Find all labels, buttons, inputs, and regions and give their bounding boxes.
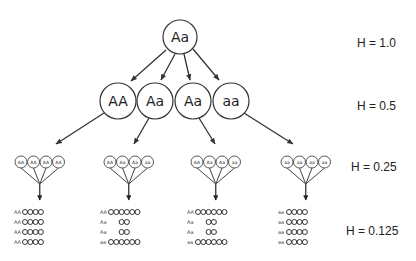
individual-circle bbox=[130, 210, 135, 215]
offspring-label: aa bbox=[232, 160, 238, 165]
offspring-label: AA bbox=[18, 160, 25, 165]
individual-circle bbox=[206, 210, 211, 215]
individual-circle bbox=[222, 210, 227, 215]
individual-circle bbox=[287, 240, 292, 245]
population-row-label: Aa bbox=[100, 219, 106, 225]
heterozygosity-labels: H = 1.0 H = 0.5 H = 0.25 H = 0.125 bbox=[346, 36, 399, 238]
h-label: H = 0.125 bbox=[346, 224, 399, 238]
individual-circle bbox=[302, 210, 307, 215]
individual-circle bbox=[135, 210, 140, 215]
population-row-label: aa bbox=[100, 239, 106, 245]
individual-circle bbox=[211, 230, 216, 235]
individual-circle bbox=[292, 230, 297, 235]
individual-circle bbox=[23, 210, 28, 215]
individual-circle bbox=[23, 240, 28, 245]
genotype-label: Aa bbox=[146, 93, 164, 109]
individual-circle bbox=[119, 240, 124, 245]
selfing-heterozygosity-diagram: Aa AA Aa Aa aa H = 1.0 H = 0.5 H = 0.25 … bbox=[0, 0, 416, 261]
offspring-label: aa bbox=[309, 160, 315, 165]
h-label: H = 0.25 bbox=[351, 160, 397, 174]
individual-circle bbox=[28, 230, 33, 235]
individual-circle bbox=[23, 230, 28, 235]
offspring-label: AA bbox=[107, 160, 114, 165]
offspring-label: aa bbox=[297, 160, 303, 165]
population-row-label: Aa bbox=[100, 229, 106, 235]
individual-circle bbox=[28, 210, 33, 215]
offspring-label: Aa bbox=[120, 160, 126, 165]
generation-3: AAAAAAAAAAAaAaaaAAAaAaaaaaaaaaaa bbox=[14, 209, 307, 245]
h-label: H = 0.5 bbox=[357, 99, 396, 113]
individual-circle bbox=[196, 240, 201, 245]
individual-circle bbox=[287, 220, 292, 225]
genotype-label: AA bbox=[108, 93, 128, 109]
individual-circle bbox=[302, 230, 307, 235]
population-row-label: AA bbox=[100, 209, 108, 215]
population-group: AAAAAAAA bbox=[14, 209, 43, 245]
individual-circle bbox=[206, 220, 211, 225]
individual-circle bbox=[135, 240, 140, 245]
individual-circle bbox=[28, 220, 33, 225]
population-row-label: AA bbox=[14, 229, 22, 235]
individual-circle bbox=[114, 210, 119, 215]
individual-circle bbox=[201, 210, 206, 215]
population-group: AAAaAaaa bbox=[187, 209, 227, 245]
individual-circle bbox=[38, 230, 43, 235]
individual-circle bbox=[287, 230, 292, 235]
offspring-label: Aa bbox=[219, 160, 225, 165]
individual-circle bbox=[28, 240, 33, 245]
individual-circle bbox=[217, 210, 222, 215]
population-row-label: AA bbox=[14, 239, 22, 245]
individual-circle bbox=[206, 240, 211, 245]
individual-circle bbox=[292, 240, 297, 245]
individual-circle bbox=[302, 240, 307, 245]
individual-circle bbox=[297, 240, 302, 245]
population-group: aaaaaaaa bbox=[278, 209, 307, 245]
generation-1: AA Aa Aa aa bbox=[100, 83, 249, 119]
offspring-group: AAAAAAAA bbox=[15, 156, 65, 200]
individual-circle bbox=[201, 240, 206, 245]
individual-circle bbox=[38, 220, 43, 225]
individual-circle bbox=[38, 240, 43, 245]
individual-circle bbox=[217, 240, 222, 245]
genotype-label: Aa bbox=[171, 29, 189, 45]
individual-circle bbox=[211, 210, 216, 215]
individual-circle bbox=[211, 240, 216, 245]
individual-circle bbox=[292, 220, 297, 225]
offspring-label: AA bbox=[55, 160, 62, 165]
individual-circle bbox=[297, 210, 302, 215]
offspring-group: aaaaaaaa bbox=[281, 156, 331, 200]
genotype-label: aa bbox=[222, 93, 239, 109]
offspring-label: aa bbox=[145, 160, 151, 165]
offspring-group: AAAaAaaa bbox=[191, 156, 241, 200]
population-row-label: aa bbox=[278, 209, 284, 215]
offspring-label: AA bbox=[30, 160, 37, 165]
individual-circle bbox=[33, 210, 38, 215]
offspring-label: AA bbox=[43, 160, 50, 165]
population-group: AAAaAaaa bbox=[100, 209, 140, 245]
genotype-label: Aa bbox=[184, 93, 202, 109]
offspring-label: Aa bbox=[207, 160, 213, 165]
generation-0: Aa bbox=[163, 20, 197, 54]
individual-circle bbox=[206, 230, 211, 235]
offspring-label: AA bbox=[194, 160, 201, 165]
individual-circle bbox=[23, 220, 28, 225]
individual-circle bbox=[119, 210, 124, 215]
individual-circle bbox=[119, 220, 124, 225]
generation-2: AAAAAAAAAAAaAaaaAAAaAaaaaaaaaaaa bbox=[15, 156, 331, 200]
population-row-label: AA bbox=[14, 219, 22, 225]
offspring-group: AAAaAaaa bbox=[104, 156, 154, 200]
population-row-label: aa bbox=[278, 229, 284, 235]
individual-circle bbox=[109, 210, 114, 215]
individual-circle bbox=[287, 210, 292, 215]
individual-circle bbox=[297, 220, 302, 225]
population-row-label: AA bbox=[187, 209, 195, 215]
individual-circle bbox=[292, 210, 297, 215]
individual-circle bbox=[33, 240, 38, 245]
individual-circle bbox=[124, 220, 129, 225]
individual-circle bbox=[196, 210, 201, 215]
population-row-label: Aa bbox=[187, 219, 193, 225]
population-row-label: aa bbox=[278, 219, 284, 225]
population-row-label: AA bbox=[14, 209, 22, 215]
individual-circle bbox=[222, 240, 227, 245]
offspring-label: Aa bbox=[132, 160, 138, 165]
